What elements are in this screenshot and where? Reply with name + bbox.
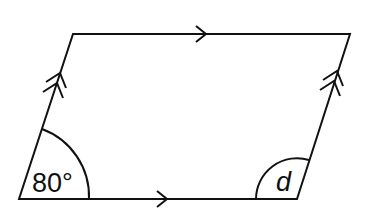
angle-label-80: 80° (32, 168, 73, 198)
parallel-double-arrow-left-icon (43, 73, 66, 98)
parallelogram-diagram: 80° d (0, 0, 373, 222)
angle-label-d: d (276, 167, 292, 197)
